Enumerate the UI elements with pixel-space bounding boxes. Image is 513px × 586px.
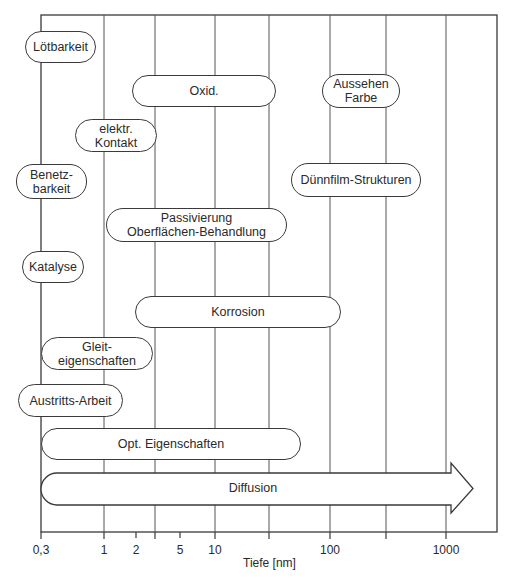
pill-katalyse: Katalyse — [22, 251, 84, 283]
pill-benetzbarkeit: Benetz- barkeit — [16, 164, 87, 199]
depth-diagram: Diffusion Lötbarkeit Oxid. Aussehen Farb… — [0, 0, 513, 586]
pill-elektr-kontakt: elektr. Kontakt — [75, 119, 157, 152]
pill-loetbarkeit: Lötbarkeit — [25, 31, 96, 63]
tick-2: 2 — [133, 543, 140, 557]
tick-10: 10 — [208, 543, 221, 557]
pill-korrosion: Korrosion — [135, 296, 341, 328]
pill-oxid: Oxid. — [132, 75, 276, 107]
pill-passivierung: Passivierung Oberflächen-Behandlung — [106, 208, 287, 242]
pill-duennfilm-strukturen: Dünnfilm-Strukturen — [291, 163, 421, 197]
pill-opt-eigenschaften: Opt. Eigenschaften — [41, 428, 301, 460]
axis-title: Tiefe [nm] — [243, 556, 296, 570]
diffusion-label: Diffusion — [229, 481, 277, 495]
pill-aussehen-farbe: Aussehen Farbe — [322, 74, 400, 108]
pill-austritts-arbeit: Austritts-Arbeit — [18, 384, 123, 417]
tick-1: 1 — [101, 543, 108, 557]
pill-gleiteigenschaften: Gleit- eigenschaften — [41, 337, 153, 370]
tick-100: 100 — [320, 543, 340, 557]
tick-1000: 1000 — [433, 543, 460, 557]
tick-0-3: 0,3 — [33, 543, 50, 557]
axis-ticks — [41, 532, 446, 539]
tick-5: 5 — [177, 543, 184, 557]
